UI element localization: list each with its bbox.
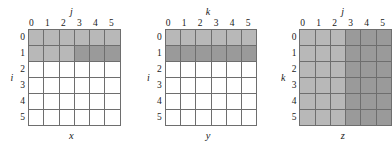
matrix-name-y: y	[145, 129, 258, 143]
matrix-row	[165, 78, 257, 94]
column-header: 5	[375, 17, 391, 29]
grid-area-z: k 0 1 2 3 4 5	[279, 29, 392, 126]
matrix-cell	[226, 62, 241, 78]
column-header: 2	[192, 17, 208, 29]
column-header: 2	[55, 17, 71, 29]
matrix-row	[29, 110, 121, 126]
column-header: 3	[208, 17, 224, 29]
matrix-cell	[376, 62, 391, 78]
matrix-cell	[165, 94, 180, 110]
matrix-cell	[44, 94, 59, 110]
row-header: 1	[287, 45, 299, 61]
row-header: 1	[16, 45, 28, 61]
column-axis-label-z: j	[279, 6, 392, 17]
row-headers-z: 0 1 2 3 4 5	[287, 29, 299, 126]
matrix-cell	[361, 110, 376, 126]
matrix-cell	[346, 46, 361, 62]
column-header: 5	[240, 17, 256, 29]
matrix-cell	[226, 78, 241, 94]
column-header: 4	[359, 17, 375, 29]
matrix-row	[300, 94, 392, 110]
matrix-cell	[59, 30, 74, 46]
matrix-cell	[196, 30, 211, 46]
row-headers-x: 0 1 2 3 4 5	[16, 29, 28, 126]
matrix-row	[165, 94, 257, 110]
matrix-cell	[330, 94, 345, 110]
matrix-cell	[315, 30, 330, 46]
matrix-grid-x	[28, 29, 121, 126]
matrix-cell	[361, 94, 376, 110]
row-header: 4	[16, 93, 28, 109]
column-headers-z: 0 1 2 3 4 5	[281, 17, 391, 29]
matrix-cell	[180, 78, 195, 94]
matrix-cell	[59, 78, 74, 94]
matrix-cell	[196, 94, 211, 110]
matrix-cell	[226, 46, 241, 62]
matrix-cell	[29, 30, 44, 46]
column-header: 4	[224, 17, 240, 29]
matrix-cell	[29, 46, 44, 62]
matrix-row	[300, 30, 392, 46]
column-header: 0	[23, 17, 39, 29]
row-header: 5	[287, 109, 299, 125]
matrix-cell	[29, 110, 44, 126]
column-axis-label-y: k	[145, 6, 258, 17]
matrix-cell	[196, 78, 211, 94]
column-axis-label-x: j	[8, 6, 121, 17]
row-header: 4	[152, 93, 164, 109]
matrix-cell	[74, 110, 89, 126]
matrix-row	[29, 46, 121, 62]
row-header: 5	[152, 109, 164, 125]
matrix-cell	[376, 30, 391, 46]
matrix-cell	[315, 62, 330, 78]
matrix-cell	[242, 78, 257, 94]
matrix-cell	[180, 46, 195, 62]
matrix-cell	[376, 110, 391, 126]
matrix-row	[29, 94, 121, 110]
matrix-cell	[242, 30, 257, 46]
matrix-cell	[105, 78, 120, 94]
matrix-cell	[361, 62, 376, 78]
matrix-cell	[300, 62, 315, 78]
matrix-row	[165, 46, 257, 62]
matrix-cell	[74, 94, 89, 110]
matrix-cell	[346, 94, 361, 110]
matrix-cell	[90, 78, 105, 94]
matrix-cell	[211, 110, 226, 126]
row-headers-y: 0 1 2 3 4 5	[152, 29, 164, 126]
matrix-cell	[59, 46, 74, 62]
matrix-cell	[196, 110, 211, 126]
matrix-row	[300, 110, 392, 126]
matrix-cell	[315, 46, 330, 62]
column-header: 0	[160, 17, 176, 29]
matrix-name-z: z	[279, 129, 392, 143]
matrix-cell	[242, 94, 257, 110]
row-header: 4	[287, 93, 299, 109]
matrix-cell	[346, 110, 361, 126]
matrix-row	[300, 46, 392, 62]
matrix-cell	[242, 46, 257, 62]
matrix-cell	[180, 94, 195, 110]
matrix-cell	[330, 78, 345, 94]
matrix-row	[29, 78, 121, 94]
matrix-cell	[346, 30, 361, 46]
matrix-cell	[196, 46, 211, 62]
matrix-cell	[180, 30, 195, 46]
matrix-figure: j 0 1 2 3 4 5 i 0 1 2 3 4 5 x k	[0, 0, 392, 155]
matrix-cell	[44, 46, 59, 62]
matrix-cell	[59, 62, 74, 78]
matrix-cell	[196, 62, 211, 78]
column-header: 3	[71, 17, 87, 29]
row-header: 2	[152, 61, 164, 77]
matrix-cell	[180, 110, 195, 126]
matrix-cell	[165, 30, 180, 46]
matrix-cell	[211, 62, 226, 78]
row-header: 0	[152, 29, 164, 45]
matrix-cell	[105, 62, 120, 78]
matrix-cell	[90, 62, 105, 78]
matrix-cell	[211, 46, 226, 62]
matrix-row	[29, 62, 121, 78]
matrix-cell	[300, 110, 315, 126]
matrix-cell	[361, 30, 376, 46]
matrix-cell	[346, 78, 361, 94]
